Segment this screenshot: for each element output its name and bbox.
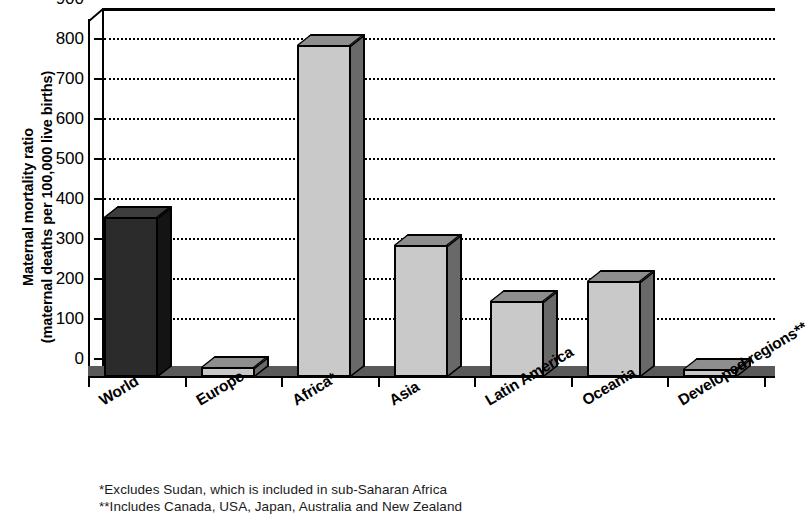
y-axis-tick (94, 358, 103, 360)
bar-side-face (351, 34, 365, 377)
bar-world (104, 217, 158, 377)
footnote-1: *Excludes Sudan, which is included in su… (99, 482, 462, 499)
y-axis-tick-label: 900 (38, 0, 84, 7)
y-axis-tick (94, 158, 103, 160)
y-axis-tick (94, 38, 103, 40)
bar-side-face (448, 234, 462, 377)
bar-oceania (587, 281, 641, 377)
plot-area (88, 8, 775, 388)
bar-side-face (641, 270, 655, 377)
y-axis-tick (94, 198, 103, 200)
y-axis-tick-label: 700 (38, 70, 84, 87)
y-axis-front-line (88, 19, 90, 377)
footnote-2: **Includes Canada, USA, Japan, Australia… (99, 499, 462, 516)
y-axis-tick (94, 278, 103, 280)
y-axis-tick-label: 100 (38, 310, 84, 327)
y-axis-tick-labels: 0100200300400500600700800900 (36, 0, 84, 400)
y-axis-tick-label: 800 (38, 30, 84, 47)
bar-side-face (158, 206, 172, 377)
y-axis-tick (94, 118, 103, 120)
chart-footnotes: *Excludes Sudan, which is included in su… (99, 482, 462, 515)
y-axis-title-line1: Maternal mortality ratio (20, 128, 36, 286)
bar-front-face (394, 245, 448, 377)
x-axis-labels: WorldEuropeAfrica*AsiaLatin AmericaOcean… (88, 382, 775, 492)
gridline (104, 118, 775, 120)
y-axis-tick-label: 500 (38, 150, 84, 167)
bar-africa (297, 45, 351, 377)
x-axis-label-asia: Asia (386, 378, 423, 410)
y-axis-tick-label: 0 (38, 350, 84, 367)
bar-asia (394, 245, 448, 377)
y-axis-tick-label: 300 (38, 230, 84, 247)
gridline (104, 78, 775, 80)
plot-top-border (102, 8, 775, 11)
bar-front-face (297, 45, 351, 377)
y-axis-tick (94, 78, 103, 80)
bar-front-face (587, 281, 641, 377)
y-axis-tick-label: 600 (38, 110, 84, 127)
bar-front-face (104, 217, 158, 377)
y-axis-tick (94, 318, 103, 320)
y-axis-tick-label: 400 (38, 190, 84, 207)
gridline (104, 158, 775, 160)
y-axis-tick (94, 238, 103, 240)
y-axis-tick-label: 200 (38, 270, 84, 287)
gridline (104, 198, 775, 200)
gridline (104, 38, 775, 40)
axis-corner-connector (88, 8, 106, 22)
